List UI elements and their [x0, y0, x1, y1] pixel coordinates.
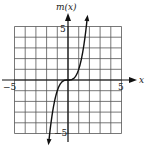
x-min-tick-label: −5: [3, 82, 17, 92]
curve-arrow-down-icon: [47, 139, 52, 146]
x-axis-label: x: [139, 75, 144, 85]
y-axis-arrow-icon: [65, 13, 71, 21]
y-axis-label: m(x): [56, 2, 77, 12]
y-min-tick-label: −5: [54, 128, 68, 138]
x-max-tick-label: 5: [118, 82, 124, 92]
y-max-tick-label: 5: [60, 24, 66, 34]
graph: m(x) x −5 5 5 −5: [0, 0, 146, 149]
x-axis-arrow-icon: [129, 77, 137, 83]
curve-arrow-up-icon: [84, 15, 89, 22]
